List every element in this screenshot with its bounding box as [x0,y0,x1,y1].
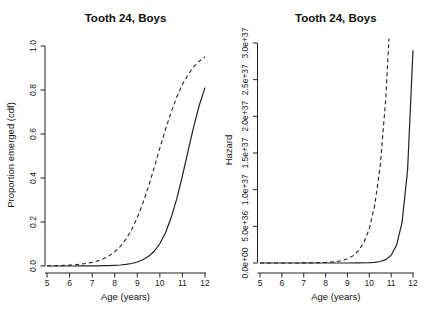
x-tick-label: 10 [155,278,165,288]
hazard-y-axis-label: Hazard [223,135,234,166]
x-tick-label: 9 [345,278,350,288]
hazard-axes-group: 567891011120.0e+005.0e+361.0e+371.5e+372… [240,27,418,288]
dashed-cdf-curve [47,57,205,266]
hazard-series-group [260,39,413,263]
y-tick-label: 1.5e+37 [240,137,250,168]
x-tick-label: 12 [200,278,210,288]
y-tick-label: 0.0e+00 [240,247,250,278]
y-tick-label: 1.0 [28,40,38,52]
cdf-axes-group: 567891011120.00.20.40.60.81.0 [28,40,210,288]
cdf-plot-panel: Tooth 24, Boys Age (years) Proportion em… [0,0,221,322]
y-tick-label: 3.0e+37 [240,27,250,58]
cdf-series-group [47,57,205,266]
solid-hazard-curve [260,50,413,263]
y-tick-label: 0.6 [28,128,38,140]
x-tick-label: 12 [408,278,418,288]
hazard-plot-panel: Tooth 24, Boys Age (years) Hazard 567891… [221,0,442,322]
x-tick-label: 8 [323,278,328,288]
x-tick-label: 5 [45,278,50,288]
x-tick-label: 11 [387,278,396,288]
figure: Tooth 24, Boys Age (years) Proportion em… [0,0,442,322]
cdf-x-axis-label: Age (years) [101,291,150,302]
dashed-hazard-curve [260,39,389,263]
hazard-plot-title: Tooth 24, Boys [295,12,377,24]
cdf-plot-title: Tooth 24, Boys [85,12,167,24]
x-tick-label: 7 [301,278,306,288]
y-tick-label: 5.0e+36 [240,211,250,242]
y-tick-label: 2.0e+37 [240,101,250,132]
cdf-y-axis-label: Proportion emerged (cdf) [5,102,16,208]
x-tick-label: 7 [90,278,95,288]
y-tick-label: 1.0e+37 [240,174,250,205]
hazard-x-axis-label: Age (years) [311,291,360,302]
y-tick-label: 0.2 [28,216,38,228]
y-tick-label: 0.0 [28,260,38,272]
x-tick-label: 8 [112,278,117,288]
x-tick-label: 11 [178,278,187,288]
x-tick-label: 5 [258,278,263,288]
x-tick-label: 6 [279,278,284,288]
y-tick-label: 2.5e+37 [240,64,250,95]
x-tick-label: 6 [67,278,72,288]
y-tick-label: 0.4 [28,172,38,184]
x-tick-label: 9 [135,278,140,288]
x-tick-label: 10 [365,278,375,288]
y-tick-label: 0.8 [28,84,38,96]
